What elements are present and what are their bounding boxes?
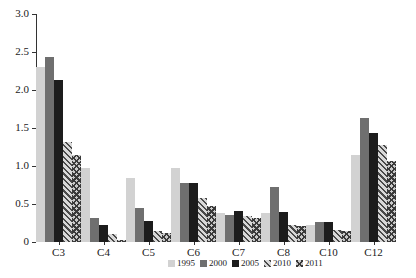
bar-c7-2005 <box>234 211 243 242</box>
legend-swatch-icon <box>200 260 207 267</box>
bar-chart: 00.51.01.52.02.53.0 C3C4C5C6C7C8C10C12 1… <box>0 0 416 278</box>
bar-c3-2000 <box>45 57 54 242</box>
bar-c3-1995 <box>36 67 45 242</box>
legend-swatch-icon <box>168 260 175 267</box>
bar-c4-1995 <box>81 168 90 242</box>
bar-c6-1995 <box>171 168 180 242</box>
bar-group-c4: C4 <box>81 14 126 242</box>
bar-c12-2000 <box>360 118 369 242</box>
bar-c10-2000 <box>315 222 324 242</box>
bar-c12-1995 <box>351 155 360 242</box>
bars <box>171 14 216 242</box>
x-tick-label-c8: C8 <box>261 245 306 259</box>
y-tick-label: 2.5 <box>15 44 29 59</box>
bars <box>216 14 261 242</box>
x-tick-label-c4: C4 <box>81 245 126 259</box>
bar-c6-2011 <box>207 206 216 242</box>
bar-c3-2011 <box>72 155 81 242</box>
bar-c7-2000 <box>225 215 234 242</box>
bar-groups: C3C4C5C6C7C8C10C12 <box>36 14 396 242</box>
bar-c12-2010 <box>378 145 387 242</box>
bar-c8-2011 <box>297 226 306 242</box>
bar-group-c10: C10 <box>306 14 351 242</box>
bar-c5-2010 <box>153 231 162 242</box>
bar-c7-2011 <box>252 218 261 242</box>
plot-area: 00.51.01.52.02.53.0 C3C4C5C6C7C8C10C12 <box>36 14 396 242</box>
bar-c4-2010 <box>108 234 117 242</box>
legend-swatch-icon <box>264 260 271 267</box>
x-tick-label-c3: C3 <box>36 245 81 259</box>
bar-c6-2010 <box>198 198 207 242</box>
bars <box>306 14 351 242</box>
x-tick-label-c5: C5 <box>126 245 171 259</box>
legend-label: 1995 <box>177 258 195 269</box>
y-tick-mark <box>32 242 36 243</box>
bar-c10-2005 <box>324 222 333 242</box>
legend-label: 2010 <box>273 258 291 269</box>
bar-group-c3: C3 <box>36 14 81 242</box>
bar-group-c12: C12 <box>351 14 396 242</box>
bar-c10-2010 <box>333 230 342 242</box>
x-tick-label-c6: C6 <box>171 245 216 259</box>
bar-c5-2000 <box>135 208 144 242</box>
y-tick-label: 1.5 <box>15 120 29 135</box>
bar-c4-2000 <box>90 218 99 242</box>
bar-c4-2011 <box>117 240 126 242</box>
x-tick-label-c7: C7 <box>216 245 261 259</box>
bar-c7-2010 <box>243 216 252 242</box>
chart-legend: 19952000200520102011 <box>168 258 323 269</box>
bar-c3-2010 <box>63 142 72 242</box>
bar-c8-2005 <box>279 212 288 242</box>
bar-c7-1995 <box>216 213 225 242</box>
bars <box>261 14 306 242</box>
bar-c8-2000 <box>270 187 279 242</box>
legend-item-2011[interactable]: 2011 <box>296 258 323 269</box>
bar-c5-2005 <box>144 221 153 242</box>
bar-c10-2011 <box>342 231 351 242</box>
y-tick-label: 1.0 <box>15 158 29 173</box>
bar-c4-2005 <box>99 225 108 242</box>
legend-item-1995[interactable]: 1995 <box>168 258 195 269</box>
bar-c3-2005 <box>54 80 63 242</box>
legend-item-2000[interactable]: 2000 <box>200 258 227 269</box>
bar-group-c6: C6 <box>171 14 216 242</box>
x-tick-label-c12: C12 <box>351 245 396 259</box>
legend-swatch-icon <box>232 260 239 267</box>
legend-label: 2005 <box>241 258 259 269</box>
bar-c8-1995 <box>261 213 270 242</box>
legend-item-2010[interactable]: 2010 <box>264 258 291 269</box>
bar-c6-2000 <box>180 183 189 242</box>
y-tick-label: 0.5 <box>15 196 29 211</box>
legend-item-2005[interactable]: 2005 <box>232 258 259 269</box>
legend-swatch-icon <box>296 260 303 267</box>
y-tick-label: 2.0 <box>15 82 29 97</box>
bar-group-c8: C8 <box>261 14 306 242</box>
bar-group-c5: C5 <box>126 14 171 242</box>
y-tick-label: 3.0 <box>15 6 29 21</box>
bar-c6-2005 <box>189 183 198 242</box>
bars <box>126 14 171 242</box>
bars <box>81 14 126 242</box>
bar-c5-2011 <box>162 233 171 242</box>
bar-c10-1995 <box>306 225 315 242</box>
legend-label: 2000 <box>209 258 227 269</box>
bar-c8-2010 <box>288 225 297 242</box>
bars <box>36 14 81 242</box>
bar-group-c7: C7 <box>216 14 261 242</box>
y-tick-label: 0 <box>24 234 30 249</box>
bar-c5-1995 <box>126 178 135 242</box>
legend-label: 2011 <box>305 258 323 269</box>
bars <box>351 14 396 242</box>
x-tick-label-c10: C10 <box>306 245 351 259</box>
bar-c12-2005 <box>369 133 378 242</box>
bar-c12-2011 <box>387 161 396 242</box>
